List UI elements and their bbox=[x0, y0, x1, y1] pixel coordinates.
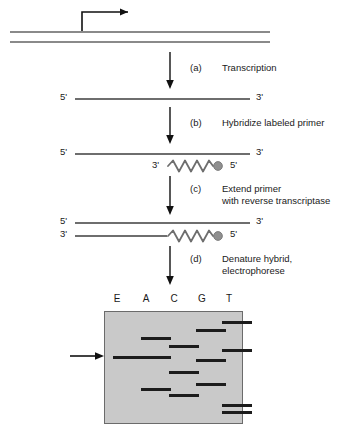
gel-band-A-3 bbox=[141, 388, 171, 391]
gel-band-G-2 bbox=[196, 359, 226, 362]
gel-band-T-3 bbox=[222, 404, 252, 407]
gel-band-T-4 bbox=[222, 411, 252, 414]
step-d-text-line1: Denature hybrid, bbox=[222, 253, 292, 265]
gel-pointer-arrow-icon bbox=[70, 349, 106, 363]
step-c-letter: (c) bbox=[190, 183, 201, 195]
gel-band-C-2 bbox=[169, 371, 199, 374]
hybrid-c-top-right-prime: 3' bbox=[256, 216, 263, 226]
hybrid-c-bottom-left-prime: 3' bbox=[60, 229, 67, 239]
hybrid-b-top-left-prime: 5' bbox=[60, 147, 67, 157]
figure-canvas: (a) Transcription 5' 3' (b) Hybridize la… bbox=[0, 0, 351, 433]
dna-strand-bottom bbox=[10, 41, 270, 43]
gel-lane-label-G: G bbox=[195, 293, 209, 304]
gel-lane-label-A: A bbox=[139, 293, 153, 304]
gel-band-C-1 bbox=[169, 345, 199, 348]
step-d-text-line2: electrophorese bbox=[222, 265, 285, 277]
gel-band-G-1 bbox=[196, 329, 226, 332]
transcript-left-prime: 5' bbox=[60, 92, 67, 102]
hybrid-c-transcript-strand bbox=[75, 222, 250, 224]
transcript-right-prime: 3' bbox=[256, 92, 263, 102]
hybrid-b-top-right-prime: 3' bbox=[256, 147, 263, 157]
gel-band-T-1 bbox=[222, 321, 252, 324]
gel-band-T-2 bbox=[222, 349, 252, 352]
step-c-text-line1: Extend primer bbox=[222, 183, 281, 195]
hybrid-b-primer-left-prime: 3' bbox=[152, 160, 159, 170]
gel-lane-label-T: T bbox=[222, 293, 236, 304]
step-a-letter: (a) bbox=[190, 62, 202, 74]
extended-primer-zigzag-icon bbox=[166, 228, 228, 244]
hybrid-c-bottom-right-prime: 5' bbox=[230, 229, 237, 239]
gel-lane-label-C: C bbox=[167, 293, 181, 304]
step-b-letter: (b) bbox=[190, 117, 202, 129]
gel-band-G-3 bbox=[196, 383, 226, 386]
step-a-text: Transcription bbox=[222, 62, 277, 74]
labeled-primer-zigzag-icon bbox=[166, 158, 228, 174]
step-d-arrow-icon bbox=[160, 246, 180, 286]
gel-lane-label-E: E bbox=[110, 293, 124, 304]
step-c-text-line2: with reverse transcriptase bbox=[222, 195, 330, 207]
step-b-text: Hybridize labeled primer bbox=[222, 117, 324, 129]
hybrid-b-primer-right-prime: 5' bbox=[230, 160, 237, 170]
hybrid-b-transcript-strand bbox=[75, 153, 250, 155]
gel-band-E-1 bbox=[113, 356, 143, 359]
step-b-arrow-icon bbox=[160, 107, 180, 145]
gel-band-A-2 bbox=[141, 356, 171, 359]
gel-band-A-1 bbox=[141, 337, 171, 340]
gel-electrophoresis-panel bbox=[104, 311, 243, 424]
radiolabel-dot-icon bbox=[214, 232, 223, 241]
transcript-strand bbox=[75, 98, 250, 100]
step-d-letter: (d) bbox=[190, 253, 202, 265]
dna-strand-top bbox=[10, 31, 270, 33]
radiolabel-dot-icon bbox=[214, 162, 223, 171]
step-a-arrow-icon bbox=[160, 52, 180, 90]
gel-band-C-3 bbox=[169, 394, 199, 397]
hybrid-c-top-left-prime: 5' bbox=[60, 216, 67, 226]
step-c-arrow-icon bbox=[160, 176, 180, 216]
hybrid-c-cdna-strand bbox=[75, 235, 167, 237]
